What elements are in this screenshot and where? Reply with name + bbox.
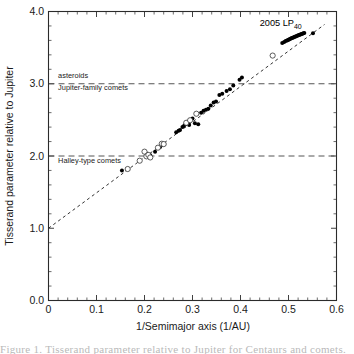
y-tick-label: 1.0 [29, 222, 44, 234]
annotation-text: asteroids [58, 71, 88, 80]
x-axis-title: 1/Semimajor axis (1/AU) [136, 320, 250, 332]
x-tick-label: 0.1 [89, 303, 104, 315]
y-tick-labels: 0.01.02.03.04.0 [29, 5, 44, 306]
tisserand-scatter-plot: 1/Semimajor axis (1/AU) Tisserand parame… [0, 0, 354, 354]
data-point-open [161, 141, 166, 146]
data-point-filled [214, 99, 218, 103]
data-point-open [137, 158, 142, 163]
x-tick-labels: 00.10.20.30.40.50.6 [46, 303, 344, 315]
annotation-text: 2005 LP [260, 18, 294, 28]
data-point-filled [302, 31, 306, 35]
x-tick-label: 0.3 [185, 303, 200, 315]
x-tick-label: 0 [46, 303, 52, 315]
data-point-filled [120, 168, 124, 172]
annotation-halley-type-comets: Halley-type comets [58, 156, 121, 165]
figure-caption: Figure 1. Tisserand parameter relative t… [0, 344, 354, 354]
data-point-filled [209, 103, 213, 107]
data-point-filled [206, 107, 210, 111]
x-tick-label: 0.2 [137, 303, 152, 315]
x-tick-label: 0.4 [233, 303, 248, 315]
annotation-asteroids: asteroids [58, 71, 88, 80]
trend-line [49, 25, 325, 229]
figure-container: 1/Semimajor axis (1/AU) Tisserand parame… [0, 0, 354, 354]
data-point-open [148, 155, 153, 160]
figure-caption-strip: Figure 1. Tisserand parameter relative t… [0, 344, 354, 354]
x-tick-label: 0.6 [329, 303, 344, 315]
x-tick-label: 0.5 [281, 303, 296, 315]
data-point-filled [228, 87, 232, 91]
data-point-filled [220, 92, 224, 96]
data-points [120, 31, 315, 172]
y-tick-label: 0.0 [29, 294, 44, 306]
annotation-text: Halley-type comets [58, 156, 121, 165]
y-tick-label: 4.0 [29, 5, 44, 17]
data-point-open [125, 166, 130, 171]
annotation-subscript: 40 [294, 23, 302, 30]
data-point-open [194, 111, 199, 116]
annotation-object-2005-lp40: 2005 LP40 [260, 18, 302, 30]
plot-annotations: asteroidsJupiter-family cometsHalley-typ… [58, 18, 302, 165]
y-tick-label: 2.0 [29, 150, 44, 162]
data-point-filled [240, 76, 244, 80]
axis-titles: 1/Semimajor axis (1/AU) Tisserand parame… [3, 66, 250, 332]
data-point-filled [225, 89, 229, 93]
data-point-filled [311, 31, 315, 35]
data-point-open [270, 53, 275, 58]
y-tick-label: 3.0 [29, 77, 44, 89]
fit-trend-line [49, 25, 325, 229]
data-point-filled [196, 122, 200, 126]
data-point-open [188, 118, 193, 123]
y-axis-title: Tisserand parameter relative to Jupiter [3, 66, 15, 246]
annotation-text: Jupiter-family comets [58, 83, 128, 92]
data-point-filled [231, 84, 235, 88]
annotation-jupiter-family-comets: Jupiter-family comets [58, 83, 128, 92]
